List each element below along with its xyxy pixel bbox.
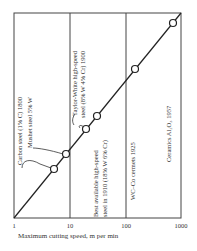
x-axis-label: Maximum cutting speed, m per min	[18, 232, 119, 240]
label-taylor-white-1: Taylor-White high-speed	[71, 50, 78, 116]
leader-carbon	[22, 161, 51, 168]
label-best-1910-1: Best available high-speed	[92, 149, 99, 217]
point-carbon-steel	[51, 166, 58, 173]
label-taylor-white-2: steel (8% W 4% Cr) 1900	[79, 51, 87, 118]
label-mushet-steel: Mushet steel 5% W	[26, 96, 33, 148]
chart: Carbon steel (1% C) 1800 Mushet steel 5%…	[0, 0, 197, 251]
x-tick-100: 100	[121, 222, 131, 229]
label-carbon-steel: Carbon steel (1% C) 1800	[16, 97, 24, 165]
leader-mushet	[33, 148, 63, 154]
point-wc-co	[132, 66, 139, 73]
label-ceramics: Ceramics Al₂O₃ 1957	[165, 105, 172, 162]
x-tick-1: 1	[12, 222, 15, 229]
point-taylor-white	[94, 113, 101, 120]
label-best-1910-2: steel in 1910 (18% W 6% Cr)	[101, 140, 109, 217]
point-ceramics	[170, 20, 177, 27]
point-mushet-steel	[63, 151, 70, 158]
label-wc-co: WC–Co cermets 1925	[129, 142, 136, 200]
x-tick-10: 10	[67, 222, 74, 229]
x-tick-1000: 1000	[175, 222, 188, 229]
